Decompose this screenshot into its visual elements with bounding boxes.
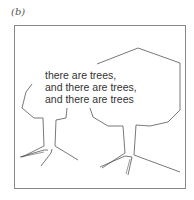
left-tree-trunk-right xyxy=(55,120,78,160)
text-line-3: and there are trees xyxy=(45,93,137,105)
frame xyxy=(15,26,186,189)
left-tree-canopy xyxy=(22,84,43,118)
right-tree-canopy-left xyxy=(90,108,123,126)
tree-text: there are trees, and there are trees, an… xyxy=(45,69,137,105)
right-tree-trunk-right xyxy=(134,125,180,172)
right-tree-root-2 xyxy=(126,159,130,174)
right-tree-trunk-left xyxy=(102,126,125,168)
text-line-2: and there are trees, xyxy=(45,81,137,93)
text-line-1: there are trees, xyxy=(45,69,137,81)
left-tree-root-2 xyxy=(41,149,52,166)
left-tree-canopy-right xyxy=(56,108,67,120)
left-tree-root-3 xyxy=(21,152,44,157)
right-tree xyxy=(90,48,180,175)
